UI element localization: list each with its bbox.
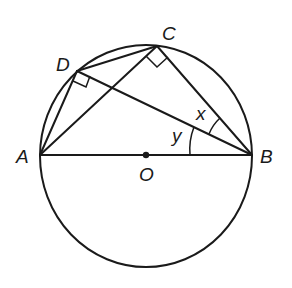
angle-arc-y [190,127,194,155]
circle-geometry-diagram: A B O C D x y [0,0,292,288]
label-d: D [56,54,70,75]
label-o: O [139,164,154,185]
center-point-o [143,152,149,158]
label-a: A [15,146,29,167]
angle-arc-x [209,118,220,134]
label-angle-x: x [195,103,207,124]
label-c: C [162,23,176,44]
right-angle-marker-d [73,76,90,87]
label-angle-y: y [170,125,183,146]
segment-ad [40,71,77,155]
label-b: B [260,146,273,167]
right-angle-marker-c [146,56,168,67]
